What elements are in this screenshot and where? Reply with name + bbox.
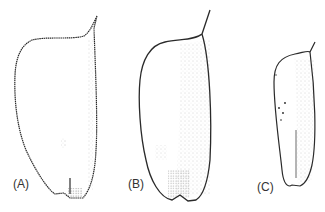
shape-a — [15, 16, 97, 198]
label-b: (B) — [128, 177, 144, 191]
shape-b — [139, 10, 210, 201]
botanical-figure — [0, 0, 325, 212]
shape-c — [274, 42, 315, 186]
label-a: (A) — [13, 177, 29, 191]
label-c: (C) — [257, 180, 274, 194]
